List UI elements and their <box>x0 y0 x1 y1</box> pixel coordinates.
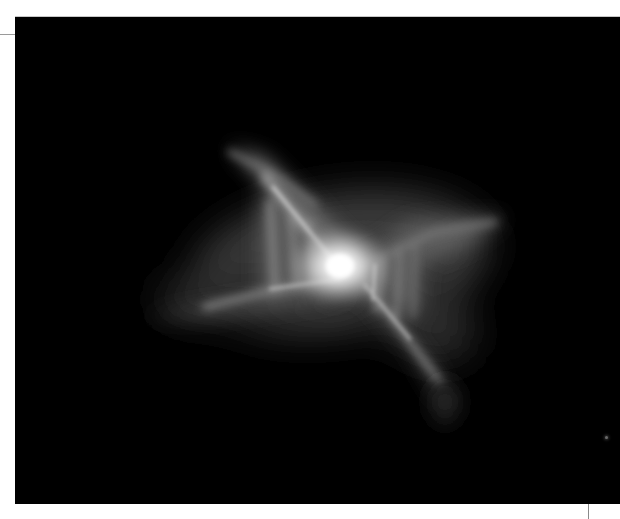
lower-tail <box>431 380 459 424</box>
background-star <box>605 436 608 439</box>
crop-mark-left <box>0 34 15 35</box>
central-core <box>285 224 395 308</box>
nebula-image: Grayscale telescope image of an X-shaped… <box>15 17 620 504</box>
crop-mark-bottom <box>588 504 589 519</box>
page: Grayscale telescope image of an X-shaped… <box>0 0 620 519</box>
nebula-illustration <box>15 17 620 504</box>
